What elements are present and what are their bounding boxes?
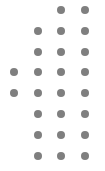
dot-icon	[57, 89, 65, 97]
dot-icon	[81, 27, 89, 35]
dot-grid-pattern	[0, 0, 105, 171]
dot-icon	[34, 89, 42, 97]
dot-icon	[34, 110, 42, 118]
dot-icon	[81, 6, 89, 14]
dot-icon	[81, 68, 89, 76]
dot-icon	[57, 6, 65, 14]
dot-icon	[34, 27, 42, 35]
dot-icon	[57, 48, 65, 56]
dot-icon	[57, 110, 65, 118]
dot-icon	[57, 27, 65, 35]
dot-icon	[57, 131, 65, 139]
dot-icon	[34, 131, 42, 139]
dot-icon	[57, 68, 65, 76]
dot-icon	[57, 152, 65, 160]
dot-icon	[34, 152, 42, 160]
dot-icon	[81, 48, 89, 56]
dot-icon	[10, 89, 18, 97]
dot-icon	[34, 48, 42, 56]
dot-icon	[81, 152, 89, 160]
dot-icon	[34, 68, 42, 76]
dot-icon	[81, 110, 89, 118]
dot-icon	[10, 68, 18, 76]
dot-icon	[81, 131, 89, 139]
dot-icon	[81, 89, 89, 97]
